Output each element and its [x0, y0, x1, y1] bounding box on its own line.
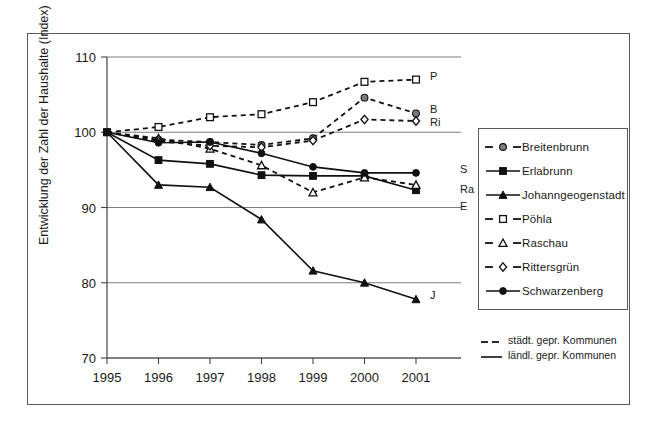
solid-line-glyph	[478, 351, 508, 363]
end-label-S: S	[460, 163, 467, 175]
legend-symbol-icon	[484, 283, 522, 299]
data-point-marker	[258, 111, 265, 118]
legend-symbol-circle-filled-solid	[484, 283, 522, 299]
legend-symbol-triangle-open-dashed	[484, 235, 522, 251]
legend-item-johanngeogenstadt[interactable]: Johanngeogenstadt	[479, 183, 627, 207]
data-point-marker	[500, 216, 507, 223]
gridlines	[107, 57, 461, 358]
y-axis-title: Entwicklung der Zahl der Haushalte (Inde…	[37, 5, 51, 245]
data-point-marker	[500, 288, 507, 295]
dashed-line-icon	[478, 334, 508, 346]
linestyle-item-laendlich: ländl. gepr. Kommunen	[478, 347, 650, 362]
x-tick-label: 1998	[247, 370, 276, 385]
legend-symbol-triangle-filled-solid	[484, 187, 522, 203]
y-tick-label: 100	[74, 125, 96, 140]
data-point-marker	[413, 76, 420, 83]
legend-label: Erlabrunn	[522, 165, 573, 177]
data-point-marker	[361, 78, 368, 85]
end-label-P: P	[430, 70, 437, 82]
linestyle-label: ländl. gepr. Kommunen	[508, 349, 616, 361]
data-point-marker	[155, 139, 162, 146]
data-point-marker	[361, 115, 368, 123]
data-point-marker	[207, 160, 214, 167]
linestyle-label: städt. gepr. Kommunen	[508, 334, 617, 346]
legend-item-breitenbrunn[interactable]: Breitenbrunn	[479, 135, 627, 159]
legend-item-poehla[interactable]: Pöhla	[479, 207, 627, 231]
data-point-marker	[500, 144, 507, 151]
legend-box: Breitenbrunn Erlabrunn Johanngeogenstadt…	[478, 128, 628, 310]
end-label-B: B	[430, 103, 437, 115]
legend-item-rittersgruen[interactable]: Rittersgrün	[479, 255, 627, 279]
legend-symbol-icon	[484, 235, 522, 251]
legend-symbol-circle-grey-dashed	[484, 139, 522, 155]
series-markers	[104, 76, 420, 303]
data-point-marker	[310, 172, 317, 179]
data-point-marker	[310, 163, 317, 170]
data-point-marker	[361, 169, 368, 176]
y-tick-label: 70	[82, 351, 96, 366]
data-point-marker	[412, 117, 419, 125]
legend-label: Raschau	[522, 237, 568, 249]
series-end-labels: BEJPRaRiS	[430, 70, 475, 302]
dashed-line-glyph	[478, 336, 508, 348]
data-point-marker	[104, 129, 111, 136]
legend-label: Breitenbrunn	[522, 141, 589, 153]
data-point-marker	[499, 263, 506, 271]
end-label-Ra: Ra	[460, 183, 475, 195]
end-label-Ri: Ri	[430, 116, 440, 128]
end-label-E: E	[460, 200, 467, 212]
x-tick-label: 1996	[144, 370, 173, 385]
legend-symbol-square-open-dashed	[484, 211, 522, 227]
legend-symbol-square-filled-solid	[484, 163, 522, 179]
legend-label: Pöhla	[522, 213, 552, 225]
solid-line-icon	[478, 349, 508, 361]
data-point-marker	[258, 150, 265, 157]
data-point-marker	[207, 139, 214, 146]
data-point-marker	[207, 114, 214, 121]
axes	[101, 57, 461, 364]
legend-symbol-diamond-open-dashed	[484, 259, 522, 275]
y-tick-label: 80	[82, 276, 96, 291]
x-tick-label: 2001	[402, 370, 431, 385]
legend-symbol-icon	[484, 163, 522, 179]
legend-symbol-icon	[484, 211, 522, 227]
series-line-phla	[107, 80, 416, 133]
legend-symbol-icon	[484, 187, 522, 203]
legend-item-erlabrunn[interactable]: Erlabrunn	[479, 159, 627, 183]
legend-label: Schwarzenberg	[522, 285, 603, 297]
legend-symbol-icon	[484, 139, 522, 155]
x-tick-label: 2000	[350, 370, 379, 385]
linestyle-item-staedtisch: städt. gepr. Kommunen	[478, 332, 650, 347]
data-point-marker	[361, 94, 368, 101]
end-label-J: J	[430, 289, 436, 301]
y-tick-label: 110	[75, 50, 96, 65]
x-tick-label: 1999	[299, 370, 328, 385]
data-point-marker	[499, 239, 507, 246]
data-point-marker	[500, 168, 507, 175]
x-tick-label: 1997	[196, 370, 225, 385]
legend-item-schwarzenberg[interactable]: Schwarzenberg	[479, 279, 627, 303]
data-point-marker	[258, 216, 266, 223]
y-tick-labels: 110100908070	[74, 50, 96, 366]
legend-label: Johanngeogenstadt	[522, 189, 625, 201]
legend-label: Rittersgrün	[522, 261, 579, 273]
x-tick-label: 1995	[93, 370, 122, 385]
legend-item-raschau[interactable]: Raschau	[479, 231, 627, 255]
data-point-marker	[155, 157, 162, 164]
linestyle-legend: städt. gepr. Kommunen ländl. gepr. Kommu…	[478, 332, 650, 362]
data-point-marker	[155, 124, 162, 131]
legend-symbol-icon	[484, 259, 522, 275]
x-tick-labels: 1995199619971998199920002001	[93, 370, 431, 385]
data-point-marker	[413, 169, 420, 176]
y-tick-label: 90	[82, 201, 96, 216]
data-point-marker	[310, 99, 317, 106]
data-point-marker	[258, 172, 265, 179]
